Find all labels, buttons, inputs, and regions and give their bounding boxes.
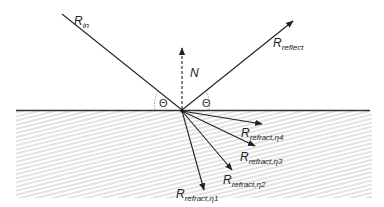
diagram-canvas [0, 0, 384, 207]
label-refract-eta1: Rrefract,η1 [176, 185, 218, 203]
label-refract-eta3: Rrefract,η3 [240, 148, 282, 166]
refraction-diagram: Rin N Rreflect Θ Θ Rrefract,η1 Rrefract,… [0, 0, 384, 207]
angle-arc-left [154, 91, 158, 110]
label-theta-left: Θ [159, 98, 168, 109]
label-reflected: Rreflect [273, 34, 303, 52]
label-normal: N [190, 64, 199, 80]
label-theta-right: Θ [202, 98, 211, 109]
label-refract-eta2: Rrefract,η2 [223, 171, 265, 189]
label-refract-eta4: Rrefract,η4 [241, 124, 283, 142]
label-incident: Rin [74, 12, 89, 30]
incidence-point [180, 109, 183, 112]
